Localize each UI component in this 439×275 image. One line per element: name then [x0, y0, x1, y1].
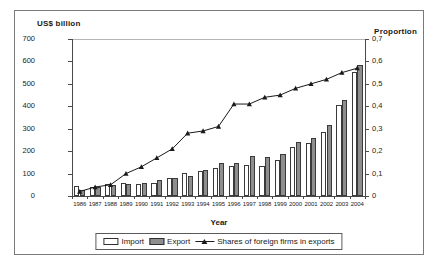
right-tick-label: 0,1 — [372, 170, 382, 178]
left-tick-label: 400 — [22, 102, 35, 110]
import-swatch-icon — [103, 238, 118, 245]
left-tick-label: 500 — [22, 80, 35, 88]
right-tick — [365, 61, 369, 62]
legend-item-import: Import — [103, 237, 144, 246]
line-marker-1990 — [139, 164, 144, 169]
legend-item-export: Export — [149, 237, 190, 246]
right-tick-label: 0,7 — [372, 35, 382, 43]
right-tick — [365, 84, 369, 85]
line-series-shares-of-foreign-firms — [72, 39, 365, 196]
x-tick — [288, 196, 289, 199]
left-tick-label: 300 — [22, 125, 35, 133]
x-tick — [72, 196, 73, 199]
x-tick — [149, 196, 150, 199]
x-tick-label: 2004 — [346, 201, 368, 207]
legend-label-shares: Shares of foreign firms in exports — [217, 237, 334, 246]
left-tick-label: 700 — [22, 35, 35, 43]
x-tick — [257, 196, 258, 199]
left-axis-title: US$ billion — [37, 19, 81, 28]
x-tick — [165, 196, 166, 199]
left-tick-label: 600 — [22, 57, 35, 65]
x-tick — [272, 196, 273, 199]
right-tick-label: 0,4 — [372, 102, 382, 110]
right-tick — [365, 151, 369, 152]
legend-label-import: Import — [121, 237, 144, 246]
right-axis-line — [365, 39, 366, 196]
x-tick — [103, 196, 104, 199]
x-axis-title: Year — [15, 218, 423, 227]
line-marker-2002 — [324, 77, 329, 82]
right-tick — [365, 129, 369, 130]
chart-figure: US$ billion Proportion 01002003004005006… — [14, 10, 424, 255]
x-tick — [87, 196, 88, 199]
x-tick — [350, 196, 351, 199]
x-tick — [134, 196, 135, 199]
left-tick-label: 100 — [22, 170, 35, 178]
left-tick-label: 200 — [22, 147, 35, 155]
x-tick — [303, 196, 304, 199]
right-tick — [365, 39, 369, 40]
chart-legend: Import Export Shares of foreign firms in… — [95, 233, 342, 250]
x-tick — [226, 196, 227, 199]
right-tick — [365, 174, 369, 175]
x-tick — [319, 196, 320, 199]
legend-item-shares: Shares of foreign firms in exports — [195, 237, 334, 246]
left-tick-label: 0 — [31, 192, 35, 200]
line-marker-2004 — [355, 66, 360, 71]
line-marker-1991 — [154, 155, 159, 160]
plot-area — [72, 39, 365, 196]
right-tick-label: 0,3 — [372, 125, 382, 133]
x-tick — [242, 196, 243, 199]
x-tick — [334, 196, 335, 199]
right-tick-label: 0,2 — [372, 147, 382, 155]
x-tick — [365, 196, 366, 199]
legend-label-export: Export — [167, 237, 190, 246]
x-tick — [118, 196, 119, 199]
line-marker-swatch-icon — [195, 238, 214, 246]
right-tick-label: 0,5 — [372, 80, 382, 88]
right-tick-label: 0 — [372, 192, 376, 200]
x-tick — [211, 196, 212, 199]
export-swatch-icon — [149, 238, 164, 245]
line-marker-1989 — [123, 171, 128, 176]
right-tick — [365, 106, 369, 107]
x-tick — [180, 196, 181, 199]
x-tick — [195, 196, 196, 199]
x-axis-line — [72, 196, 366, 197]
right-tick-label: 0,6 — [372, 57, 382, 65]
